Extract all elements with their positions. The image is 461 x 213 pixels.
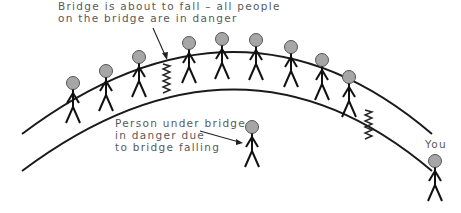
person-you xyxy=(428,155,442,202)
person-on-bridge-3 xyxy=(132,51,146,98)
under-label-line1: Person under bridge xyxy=(115,117,246,129)
person-on-bridge-2 xyxy=(99,65,113,112)
person-on-bridge-5 xyxy=(215,33,229,80)
you-label: You xyxy=(425,138,447,150)
person-on-bridge-1 xyxy=(66,77,80,124)
arrow-bridge xyxy=(153,28,165,55)
spring-left xyxy=(163,64,170,93)
person-on-bridge-7 xyxy=(284,41,298,88)
bridge-label-line2: on the bridge are in danger xyxy=(58,12,238,24)
person-on-bridge-8 xyxy=(315,54,329,101)
person-on-bridge-4 xyxy=(182,37,196,84)
bridge-diagram xyxy=(0,0,461,213)
under-label-line2: in danger due xyxy=(115,129,205,141)
bridge-label-line1: Bridge is about to fall – all people xyxy=(58,0,281,12)
under-label-line3: to bridge falling xyxy=(115,141,220,153)
person-on-bridge-6 xyxy=(249,34,263,81)
person-under-bridge xyxy=(245,121,259,168)
person-on-bridge-9 xyxy=(342,71,356,118)
